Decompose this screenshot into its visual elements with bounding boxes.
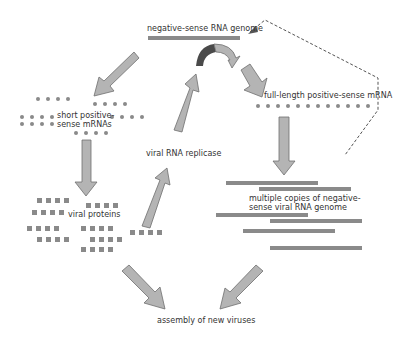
dashed-feedback-line: [250, 20, 378, 155]
label-replicase: viral RNA replicase: [146, 149, 221, 158]
arrow-to-proteins: [75, 140, 97, 196]
arrow-proteins-to-assembly: [122, 265, 165, 309]
arrow-to-copies: [273, 117, 295, 175]
label-genome: negative-sense RNA genome: [147, 24, 263, 33]
genome-bar: [148, 36, 240, 40]
arrow-proteins-to-replicase: [142, 168, 170, 228]
curved-arrow-light: [214, 44, 240, 68]
diagram-canvas: [0, 0, 396, 338]
viral-protein-squares: [27, 198, 162, 252]
label-short-mrna-2: sense mRNAs: [57, 120, 112, 129]
arrow-to-short-mrnas: [94, 52, 139, 96]
arrow-copies-to-assembly: [220, 265, 263, 309]
genome-copy-bars: [216, 181, 362, 250]
label-copies-2: sense viral RNA genome: [249, 203, 347, 212]
label-assembly: assembly of new viruses: [157, 316, 255, 325]
full-mrna-dots: [256, 104, 370, 108]
label-copies-1: multiple copies of negative-: [249, 194, 361, 203]
label-proteins: viral proteins: [68, 210, 121, 219]
label-full-mrna: full-length positive-sense mRNA: [264, 91, 392, 100]
label-short-mrna-1: short positive-: [57, 111, 114, 120]
arrow-replicase-to-genome: [174, 74, 199, 132]
curved-arrow-dark: [196, 44, 216, 66]
